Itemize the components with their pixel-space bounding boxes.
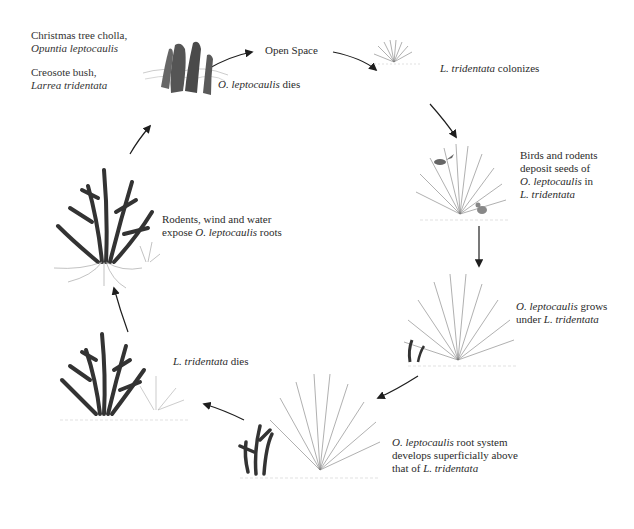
arrow-open-to-colonize xyxy=(333,52,376,70)
label-o-leptocaulis-dies: O. leptocaulis dies xyxy=(218,78,300,91)
cholla-exposed-roots-illustration xyxy=(54,170,160,288)
label-root-system-develops: O. leptocaulis root system develops supe… xyxy=(392,436,518,475)
arrow-dies-to-expose xyxy=(114,288,128,332)
label-roots-exposed: Rodents, wind and water expose O. leptoc… xyxy=(162,213,282,239)
creosote-with-bird-rodent-illustration xyxy=(416,144,510,220)
dead-cholla-illustration xyxy=(143,42,228,95)
cholla-with-dead-creosote-illustration xyxy=(60,334,190,420)
label-birds-rodents-deposit: Birds and rodents deposit seeds of O. le… xyxy=(520,149,598,201)
arrow-expose-to-dies xyxy=(130,126,150,154)
young-creosote-illustration xyxy=(370,40,420,64)
arrow-colonize-to-birds xyxy=(430,104,456,137)
arrow-grows-to-root xyxy=(378,376,418,398)
cycle-illustration xyxy=(0,0,634,529)
arrow-root-to-dies xyxy=(204,404,244,420)
label-o-leptocaulis-grows: O. leptocaulis grows under L. tridentata xyxy=(516,300,607,326)
cholla-beside-creosote-illustration xyxy=(240,374,380,478)
bird-icon xyxy=(434,154,454,165)
arrow-dies-to-open xyxy=(206,52,252,70)
label-l-tridentata-dies: L. tridentata dies xyxy=(173,355,249,368)
rodent-icon xyxy=(476,203,488,215)
label-l-tridentata-colonizes: L. tridentata colonizes xyxy=(440,62,539,75)
label-open-space: Open Space xyxy=(265,44,318,57)
creosote-with-young-cholla-illustration xyxy=(404,274,518,366)
